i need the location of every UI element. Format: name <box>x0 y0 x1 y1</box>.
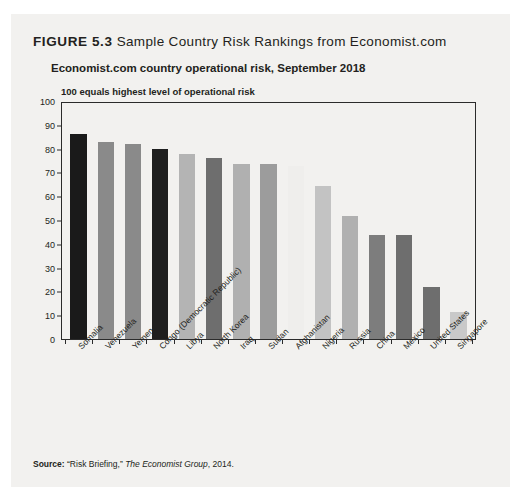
y-axis-tick-mark <box>57 316 61 317</box>
y-axis-tick-label: 30 <box>45 264 55 274</box>
bar <box>396 235 412 339</box>
bar-series <box>62 103 475 339</box>
y-axis-tick-label: 50 <box>45 216 55 226</box>
bar <box>206 158 222 339</box>
chart-title: Economist.com country operational risk, … <box>51 62 365 74</box>
source-quoted: “Risk Briefing,” <box>67 459 123 469</box>
y-axis-tick-label: 80 <box>45 145 55 155</box>
y-axis-tick-label: 100 <box>40 97 55 107</box>
chart-subtitle: 100 equals highest level of operational … <box>61 86 255 97</box>
plot-wrapper: 0102030405060708090100 <box>61 102 476 340</box>
y-axis-tick-mark <box>57 197 61 198</box>
bar-slot <box>309 103 336 339</box>
figure-caption: Sample Country Risk Rankings from Econom… <box>117 34 447 49</box>
bar-slot <box>255 103 282 339</box>
bar-slot <box>364 103 391 339</box>
y-axis-tick-mark <box>57 268 61 269</box>
source-note: Source: “Risk Briefing,” The Economist G… <box>33 459 234 469</box>
plot-area <box>61 102 476 340</box>
bar-slot <box>119 103 146 339</box>
y-axis-tick-label: 40 <box>45 240 55 250</box>
y-axis-tick-label: 90 <box>45 121 55 131</box>
bar <box>260 164 276 339</box>
bar <box>152 149 168 339</box>
y-axis-tick-mark <box>57 292 61 293</box>
bar <box>369 235 385 339</box>
bar <box>98 142 114 339</box>
bar-slot <box>282 103 309 339</box>
y-axis-tick-mark <box>57 221 61 222</box>
bar <box>70 134 86 339</box>
y-axis-tick-label: 60 <box>45 192 55 202</box>
bar-slot <box>445 103 472 339</box>
bar <box>125 144 141 339</box>
bar <box>288 166 304 339</box>
bar-slot <box>418 103 445 339</box>
bar-slot <box>391 103 418 339</box>
bar-slot <box>65 103 92 339</box>
y-axis-tick-label: 70 <box>45 168 55 178</box>
figure-title: FIGURE 5.3 Sample Country Risk Rankings … <box>33 34 447 49</box>
bar-slot <box>336 103 363 339</box>
bar <box>342 216 358 339</box>
y-axis-tick-label: 20 <box>45 287 55 297</box>
source-label: Source: <box>33 459 65 469</box>
source-publisher: The Economist Group <box>125 459 208 469</box>
bar-slot <box>146 103 173 339</box>
y-axis-tick-label: 0 <box>50 335 55 345</box>
y-axis-tick-mark <box>57 149 61 150</box>
figure-card: FIGURE 5.3 Sample Country Risk Rankings … <box>11 14 510 487</box>
figure-number: FIGURE 5.3 <box>33 34 113 49</box>
bar-slot <box>92 103 119 339</box>
y-axis-tick-mark <box>57 244 61 245</box>
x-axis-labels: SomaliaVenezuelaYemenCongo (Democratic R… <box>61 344 476 434</box>
bar-slot <box>228 103 255 339</box>
y-axis-tick-mark <box>57 125 61 126</box>
source-year: , 2014. <box>208 459 234 469</box>
y-axis-tick-label: 10 <box>45 311 55 321</box>
y-axis-tick-mark <box>57 173 61 174</box>
